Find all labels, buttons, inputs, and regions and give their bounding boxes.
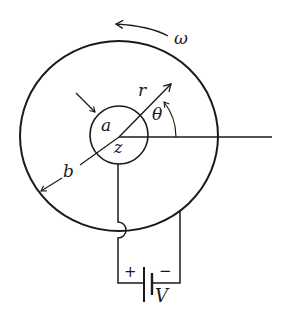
- battery-minus-label: −: [159, 262, 172, 280]
- r-label: r: [138, 80, 147, 100]
- omega-label: ω: [174, 28, 188, 48]
- radius-a-arrow-icon: [76, 93, 95, 112]
- b-label: b: [63, 161, 74, 181]
- battery-plus-label: +: [124, 263, 137, 281]
- a-label: a: [101, 115, 111, 135]
- outer-cylinder: [20, 41, 218, 231]
- rotation-arrow-icon: [116, 24, 168, 36]
- voltage-label: V: [155, 285, 170, 306]
- z-label: z: [113, 138, 123, 157]
- coaxial-cylinder-diagram: ω r b θ a z + − V: [0, 0, 285, 315]
- radius-b-arrow-icon: [41, 178, 62, 191]
- theta-label: θ: [152, 104, 162, 124]
- angle-arc-icon: [164, 102, 176, 137]
- diagram-canvas: ω r b θ a z + − V: [0, 0, 285, 315]
